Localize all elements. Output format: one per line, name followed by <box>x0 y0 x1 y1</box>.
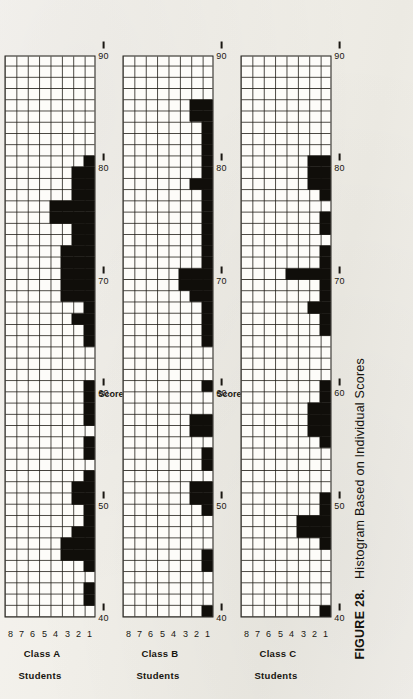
y-tick-label: 8 <box>4 628 16 638</box>
histogram-bar <box>319 290 330 301</box>
histogram-bar <box>189 492 212 503</box>
bars-class-b <box>123 56 212 616</box>
x-tick-mark <box>338 41 339 48</box>
histogram-bar <box>319 391 330 402</box>
histogram-bar <box>307 178 330 189</box>
histogram-bar <box>201 144 212 155</box>
histogram-bar <box>201 605 212 616</box>
histogram-bar <box>60 537 94 548</box>
histogram-bar <box>307 414 330 425</box>
histogram-bar <box>201 504 212 515</box>
histogram-bar <box>60 279 94 290</box>
x-tick-mark <box>338 378 339 385</box>
y-tick-label: 4 <box>49 628 61 638</box>
histogram-bar <box>319 605 330 616</box>
y-tick-label: 1 <box>319 628 331 638</box>
y-axis-ticks-class-a: 12345678 <box>4 619 95 659</box>
histogram-bar <box>201 223 212 234</box>
histogram-class-a: Students Class A 12345678 405060708090 S… <box>4 55 100 659</box>
histogram-bar <box>201 155 212 166</box>
histogram-bar <box>83 380 94 391</box>
y-tick-label: 3 <box>179 628 191 638</box>
x-tick-mark <box>102 603 103 610</box>
y-axis-label-class-a: Students <box>18 670 61 681</box>
histogram-bar <box>201 121 212 132</box>
x-tick-mark <box>220 491 221 498</box>
x-axis-ticks-class-b: 405060708090 <box>214 55 232 617</box>
x-tick-label: 60 <box>334 387 344 397</box>
x-tick-label: 50 <box>216 500 226 510</box>
histogram-bar <box>71 492 94 503</box>
y-tick-label: 2 <box>72 628 84 638</box>
histogram-bar <box>71 166 94 177</box>
histogram-bar <box>71 223 94 234</box>
bars-class-c <box>241 56 330 616</box>
histogram-bar <box>307 155 330 166</box>
histogram-bar <box>83 560 94 571</box>
y-tick-label: 7 <box>251 628 263 638</box>
x-tick-label: 50 <box>334 500 344 510</box>
histogram-bar <box>319 279 330 290</box>
x-tick-label: 80 <box>98 162 108 172</box>
histogram-bar <box>319 223 330 234</box>
histogram-bar <box>60 549 94 560</box>
y-tick-label: 5 <box>274 628 286 638</box>
x-tick-mark <box>338 603 339 610</box>
histogram-bar <box>201 560 212 571</box>
y-tick-label: 4 <box>285 628 297 638</box>
histogram-bar <box>201 133 212 144</box>
y-axis-label-class-b: Students <box>136 670 179 681</box>
y-tick-label: 3 <box>61 628 73 638</box>
y-tick-label: 6 <box>144 628 156 638</box>
y-tick-label: 6 <box>26 628 38 638</box>
histogram-bar <box>201 200 212 211</box>
histogram-bar <box>201 335 212 346</box>
histogram-bar <box>189 425 212 436</box>
histogram-bar <box>319 436 330 447</box>
x-tick-mark <box>220 153 221 160</box>
histogram-bar <box>83 335 94 346</box>
x-axis-ticks-class-a: 405060708090 <box>96 55 114 617</box>
x-tick-mark <box>102 378 103 385</box>
plot-area-class-b <box>122 55 213 617</box>
histogram-bar <box>307 166 330 177</box>
histogram-bar <box>189 110 212 121</box>
histogram-bar <box>83 582 94 593</box>
x-tick-label: 50 <box>98 500 108 510</box>
histogram-bar <box>319 245 330 256</box>
y-axis-label-class-c: Students <box>254 670 297 681</box>
histogram-bar <box>285 268 331 279</box>
x-tick-mark <box>338 266 339 273</box>
figure-number: FIGURE 28. <box>352 588 366 659</box>
histogram-bar <box>83 414 94 425</box>
histogram-bar <box>201 234 212 245</box>
histogram-bar <box>71 189 94 200</box>
x-tick-mark <box>102 41 103 48</box>
histogram-bar <box>189 99 212 110</box>
histogram-bar <box>201 549 212 560</box>
figure-28: Students Class A 12345678 405060708090 S… <box>0 0 413 699</box>
histogram-bar <box>71 481 94 492</box>
histogram-bar <box>83 447 94 458</box>
histogram-bar <box>49 200 95 211</box>
x-tick-label: 40 <box>216 612 226 622</box>
x-tick-label: 70 <box>98 275 108 285</box>
histogram-bar <box>60 256 94 267</box>
histogram-bar <box>71 313 94 324</box>
plot-area-class-c <box>240 55 331 617</box>
histogram-class-c: Students Class C 12345678 405060708090 <box>240 55 336 659</box>
histogram-bar <box>319 537 330 548</box>
histogram-bar <box>178 279 212 290</box>
histogram-bar <box>71 178 94 189</box>
histogram-bar <box>201 459 212 470</box>
y-tick-label: 1 <box>83 628 95 638</box>
histogram-bar <box>178 268 212 279</box>
histogram-bar <box>83 504 94 515</box>
histogram-bar <box>83 301 94 312</box>
x-tick-label: 70 <box>334 275 344 285</box>
histogram-bar <box>319 256 330 267</box>
histogram-panel-group: Students Class A 12345678 405060708090 S… <box>4 35 338 659</box>
histogram-bar <box>189 178 212 189</box>
bars-class-a <box>5 56 94 616</box>
histogram-bar <box>307 425 330 436</box>
